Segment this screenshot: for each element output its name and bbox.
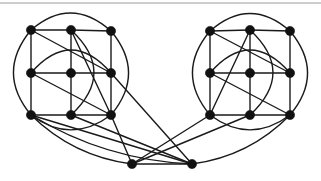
vertex-L23 xyxy=(106,68,115,77)
vertex-R23 xyxy=(285,68,294,77)
vertex-L33 xyxy=(106,110,115,119)
vertex-R12 xyxy=(245,25,254,34)
vertex-R21 xyxy=(205,68,214,77)
graph-canvas xyxy=(0,0,321,181)
edge-R12-R13 xyxy=(250,30,290,31)
vertex-L21 xyxy=(26,68,35,77)
vertex-L11 xyxy=(26,25,35,34)
edge-L12-L13 xyxy=(71,30,111,31)
vertex-R13 xyxy=(285,26,294,35)
vertex-L32 xyxy=(66,110,75,119)
vertex-HL xyxy=(127,159,136,168)
vertex-HR xyxy=(187,159,196,168)
vertex-R11 xyxy=(205,26,214,35)
edge-R11-R12 xyxy=(210,30,250,31)
vertex-L31 xyxy=(26,110,35,119)
vertex-R33 xyxy=(285,110,294,119)
graph-figure xyxy=(0,0,321,181)
vertex-L22 xyxy=(66,68,75,77)
vertex-R32 xyxy=(245,110,254,119)
vertex-R31 xyxy=(205,110,214,119)
vertex-L13 xyxy=(106,26,115,35)
vertex-R22 xyxy=(245,68,254,77)
vertex-L12 xyxy=(66,25,75,34)
